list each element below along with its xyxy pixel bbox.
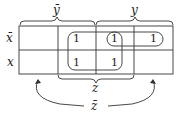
- label-z: z: [91, 81, 99, 95]
- arrow-head-right-icon: [150, 79, 156, 84]
- cell-r2-c2: 1: [73, 56, 80, 69]
- label-y: y: [130, 3, 138, 17]
- brace-y-bar: [20, 17, 95, 25]
- label-row-x-bar: x̄: [6, 31, 13, 45]
- cell-r1-c4: 1: [150, 32, 157, 45]
- label-z-bar: z̄: [90, 99, 98, 113]
- cell-r1-c2: 1: [73, 32, 80, 45]
- label-row-x: x: [7, 55, 14, 69]
- brace-y: [96, 17, 173, 25]
- cell-r1-c3: 1: [111, 32, 118, 45]
- arrow-head-left-icon: [35, 79, 41, 84]
- karnaugh-map: ȳ y x̄ x z z̄ 1 1 1 1 1: [0, 0, 183, 119]
- cell-r2-c3: 1: [111, 56, 118, 69]
- label-y-bar: ȳ: [52, 3, 60, 17]
